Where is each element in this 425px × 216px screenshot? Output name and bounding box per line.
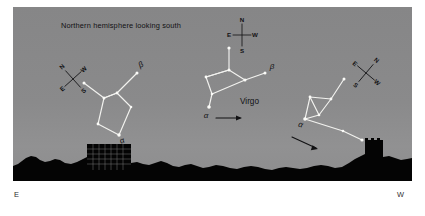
compass-left: N E W S bbox=[47, 52, 99, 104]
constellation-center-right-arm bbox=[229, 70, 265, 80]
compass-right: N E W S bbox=[341, 47, 393, 99]
star-node bbox=[227, 46, 230, 49]
compass-right-west-label: W bbox=[373, 78, 382, 87]
sky-svg: Northern hemisphere looking south N E W … bbox=[13, 7, 412, 181]
constellation-center-left-arm bbox=[206, 48, 229, 107]
star-node bbox=[211, 93, 214, 96]
compass-left-north-label: N bbox=[58, 62, 66, 71]
constellation-center: β α Virgo bbox=[204, 46, 275, 120]
star-node bbox=[97, 123, 100, 126]
star-node bbox=[207, 105, 211, 109]
compass-left-east-label: E bbox=[58, 84, 66, 92]
motion-arrow-right bbox=[292, 137, 318, 150]
page-title: Northern hemisphere looking south bbox=[61, 21, 181, 30]
star-node bbox=[330, 98, 333, 101]
compass-center: N E W S bbox=[227, 16, 258, 55]
star-node bbox=[244, 79, 247, 82]
constellation-right-alpha-label: α bbox=[297, 120, 305, 130]
compass-center-west-label: W bbox=[252, 31, 258, 38]
compass-center-east-label: E bbox=[227, 31, 231, 38]
constellation-right: α β bbox=[292, 78, 375, 151]
ground-fill bbox=[13, 170, 412, 181]
constellation-center-bottom-edge bbox=[212, 80, 245, 94]
star-node bbox=[205, 76, 208, 79]
star-node bbox=[116, 92, 119, 95]
star-node bbox=[318, 114, 321, 117]
compass-left-ew-line bbox=[65, 72, 81, 87]
star-node bbox=[343, 78, 346, 81]
compass-right-north-label: N bbox=[373, 56, 381, 65]
star-node bbox=[342, 130, 345, 133]
compass-center-south-label: S bbox=[240, 47, 244, 54]
motion-arrow-center bbox=[216, 115, 242, 120]
constellation-name-virgo: Virgo bbox=[240, 97, 259, 106]
star-node bbox=[130, 106, 133, 109]
star-node bbox=[228, 69, 231, 72]
star-node bbox=[83, 82, 86, 85]
compass-left-south-label: S bbox=[79, 87, 87, 95]
constellation-left-beta-label: β bbox=[136, 60, 146, 71]
star-node bbox=[309, 96, 312, 99]
compass-center-north-label: N bbox=[240, 16, 245, 23]
star-node bbox=[136, 72, 139, 75]
constellation-center-top-edge bbox=[206, 70, 229, 77]
sky-panel: Northern hemisphere looking south N E W … bbox=[13, 7, 412, 181]
star-node bbox=[360, 138, 363, 141]
constellation-left-bowl bbox=[98, 93, 131, 135]
constellation-center-alpha-label: α bbox=[204, 111, 209, 120]
horizon-silhouette bbox=[13, 138, 412, 181]
constellation-right-lower-arm bbox=[305, 119, 362, 140]
gasometer-building bbox=[87, 144, 131, 170]
star-node bbox=[103, 97, 106, 100]
compass-right-south-label: S bbox=[352, 81, 360, 89]
compass-right-ew-line bbox=[358, 66, 375, 80]
west-horizon-label: W bbox=[397, 190, 404, 199]
constellation-left-upper-arm bbox=[84, 73, 137, 98]
motion-arrow-center-head bbox=[236, 115, 242, 120]
constellation-center-beta-label: β bbox=[269, 62, 275, 71]
sky-chart-figure: Northern hemisphere looking south N E W … bbox=[0, 0, 425, 216]
east-horizon-label: E bbox=[14, 190, 19, 199]
star-node bbox=[264, 72, 267, 75]
constellation-right-bowl-edge bbox=[310, 97, 319, 115]
